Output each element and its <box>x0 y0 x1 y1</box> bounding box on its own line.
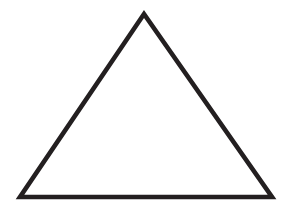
canvas-background <box>0 0 291 213</box>
figure-canvas <box>0 0 291 213</box>
triangle-diagram-svg <box>0 0 291 213</box>
